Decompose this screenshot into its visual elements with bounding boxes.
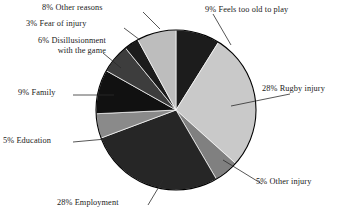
pie-chart-figure: 8% Other reasons 3% Fear of injury 6% Di… <box>0 0 357 223</box>
label-disillusionment: 6% Disillusionment with the game <box>2 36 106 55</box>
label-education: 5% Education <box>3 136 51 146</box>
leader-fear-of-injury <box>124 28 140 40</box>
label-employment: 28% Employment <box>57 198 119 208</box>
leader-education <box>73 139 106 142</box>
label-family: 9% Family <box>18 88 56 98</box>
leader-other-reasons <box>143 12 160 29</box>
label-fear-of-injury: 3% Fear of injury <box>26 19 86 29</box>
label-other-injury: 5% Other injury <box>256 177 311 187</box>
label-disillusionment-line1: 6% Disillusionment <box>38 36 106 45</box>
label-other-reasons: 8% Other reasons <box>42 3 103 13</box>
label-disillusionment-line2: with the game <box>58 46 106 55</box>
pie-chart-svg <box>0 0 357 223</box>
label-rugby-injury: 28% Rugby injury <box>262 84 325 94</box>
label-feels-too-old-to-play: 9% Feels too old to play <box>205 5 288 15</box>
